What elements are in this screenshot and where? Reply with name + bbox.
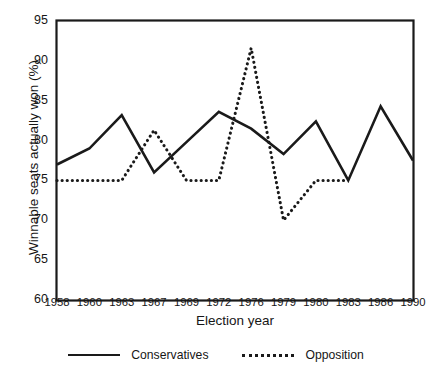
legend-entry-conservatives: Conservatives [68,348,208,362]
x-tick-1969: 1969 [174,296,199,308]
legend-swatch-solid-icon [68,354,120,356]
x-tick-1980: 1980 [303,296,328,308]
x-tick-1990: 1990 [400,296,425,308]
x-axis-title: Election year [56,313,414,328]
x-tick-1979: 1979 [271,296,296,308]
x-tick-1972: 1972 [206,296,231,308]
x-tick-1986: 1986 [368,296,393,308]
legend-label-opposition: Opposition [305,348,363,362]
x-tick-1983: 1983 [336,296,361,308]
legend-swatch-dotted-icon [242,354,294,357]
x-tick-1963: 1963 [109,296,134,308]
chart-legend: Conservatives Opposition [0,348,432,362]
x-tick-1958: 1958 [44,296,69,308]
x-tick-1967: 1967 [142,296,167,308]
legend-label-conservatives: Conservatives [131,348,208,362]
legend-entry-opposition: Opposition [242,348,363,362]
chart-figure: Winnable seats actually won (%) 60657075… [0,0,432,382]
plot-frame [57,21,414,301]
x-tick-1960: 1960 [77,296,102,308]
x-tick-1976: 1976 [239,296,264,308]
